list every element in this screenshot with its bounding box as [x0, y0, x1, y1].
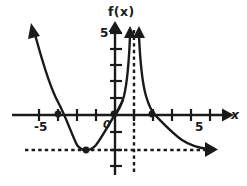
decay-curve-right-arrow-icon	[205, 142, 218, 157]
function-graph-figure: f(x) x 5 -5 5 0	[0, 0, 247, 186]
origin-intercept-point	[111, 111, 118, 118]
decay-curve	[115, 36, 130, 115]
parabola-curve	[34, 31, 123, 150]
graph-canvas	[0, 0, 247, 186]
y-axis-label: f(x)	[108, 6, 135, 19]
x-tick-label-neg5: -5	[34, 121, 47, 133]
parabola-left-intercept-point	[55, 111, 62, 118]
parabola-arrow-icon	[28, 23, 40, 39]
decay-curve-intercept-point	[149, 111, 156, 118]
y-axis-arrow-icon	[109, 21, 122, 32]
parabola-vertex-point	[83, 147, 90, 154]
x-axis-label: x	[231, 109, 239, 122]
origin-label: 0	[103, 119, 111, 130]
y-tick-label-5: 5	[100, 27, 108, 39]
x-tick-label-5: 5	[195, 121, 203, 133]
